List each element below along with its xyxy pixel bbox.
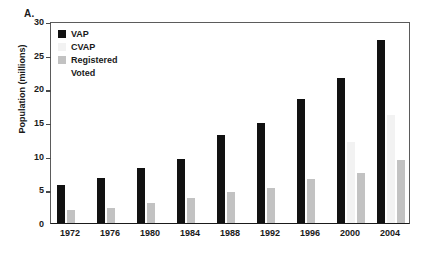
bar-registered-2000 bbox=[357, 173, 365, 224]
y-axis-tick-label: 30 bbox=[34, 17, 44, 27]
bar-group bbox=[257, 23, 277, 223]
x-axis-label: 1984 bbox=[170, 228, 210, 238]
bar-vap-1996 bbox=[297, 99, 305, 223]
y-axis-tick-label: 10 bbox=[34, 152, 44, 162]
legend-swatch-vap-icon bbox=[58, 30, 66, 38]
bar-registered-1972 bbox=[67, 210, 75, 223]
bar-registered-1980 bbox=[147, 203, 155, 223]
bar-registered-1992 bbox=[267, 188, 275, 223]
bar-vap-1976 bbox=[97, 178, 105, 223]
x-axis-label: 2000 bbox=[330, 228, 370, 238]
legend-label: Voted bbox=[71, 68, 95, 78]
bar-chart: Population (millions) 302520151050 19721… bbox=[0, 0, 423, 263]
legend-item-registered: Registered bbox=[58, 54, 118, 66]
legend-label: CVAP bbox=[71, 42, 95, 52]
bar-registered-1976 bbox=[107, 208, 115, 223]
bar-vap-1980 bbox=[137, 168, 145, 223]
bar-group bbox=[337, 23, 367, 223]
bar-registered-2004 bbox=[397, 160, 405, 223]
legend-swatch-voted-icon bbox=[58, 69, 66, 77]
bar-registered-1988 bbox=[227, 192, 235, 223]
bar-registered-1996 bbox=[307, 179, 315, 223]
y-axis-tick-label: 25 bbox=[34, 51, 44, 61]
bar-vap-1988 bbox=[217, 135, 225, 223]
x-axis-label: 1996 bbox=[290, 228, 330, 238]
x-axis-label: 1988 bbox=[210, 228, 250, 238]
x-axis-label: 1976 bbox=[90, 228, 130, 238]
x-axis-label: 1992 bbox=[250, 228, 290, 238]
y-axis-tick-label: 0 bbox=[39, 219, 44, 229]
bar-vap-1992 bbox=[257, 123, 265, 223]
bar-group bbox=[137, 23, 157, 223]
legend-item-cvap: CVAP bbox=[58, 41, 118, 53]
bar-group bbox=[177, 23, 197, 223]
chart-legend: VAPCVAPRegisteredVoted bbox=[58, 28, 118, 80]
legend-label: VAP bbox=[71, 29, 89, 39]
legend-item-vap: VAP bbox=[58, 28, 118, 40]
bar-vap-2000 bbox=[337, 78, 345, 223]
bar-group bbox=[297, 23, 317, 223]
legend-item-voted: Voted bbox=[58, 67, 118, 79]
bar-vap-1984 bbox=[177, 159, 185, 223]
bar-cvap-2004 bbox=[387, 115, 395, 223]
bar-registered-1984 bbox=[187, 198, 195, 223]
x-axis-label: 2004 bbox=[370, 228, 410, 238]
legend-label: Registered bbox=[71, 55, 118, 65]
bar-vap-1972 bbox=[57, 185, 65, 223]
bar-group bbox=[217, 23, 237, 223]
y-axis-tick-label: 15 bbox=[34, 118, 44, 128]
y-axis-tick-label: 20 bbox=[34, 84, 44, 94]
bar-vap-2004 bbox=[377, 40, 385, 223]
bar-group bbox=[377, 23, 407, 223]
x-axis-label: 1980 bbox=[130, 228, 170, 238]
y-axis-title: Population (millions) bbox=[17, 29, 27, 149]
bar-cvap-2000 bbox=[347, 142, 355, 223]
legend-swatch-registered-icon bbox=[58, 56, 66, 64]
y-axis-tick-label: 5 bbox=[39, 185, 44, 195]
x-axis-label: 1972 bbox=[50, 228, 90, 238]
legend-swatch-cvap-icon bbox=[58, 43, 66, 51]
